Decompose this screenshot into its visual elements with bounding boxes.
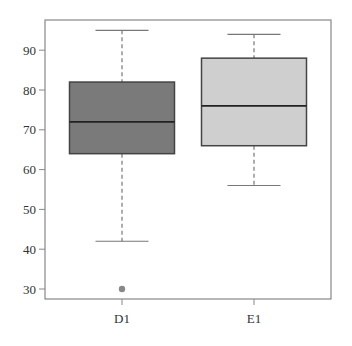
x-tick-label: D1 [114, 311, 130, 326]
y-tick-label: 90 [23, 43, 36, 58]
x-tick-label: E1 [247, 311, 261, 326]
y-tick-label: 70 [23, 122, 36, 137]
boxes [70, 30, 307, 292]
y-tick-label: 80 [23, 83, 36, 98]
y-tick-label: 30 [23, 282, 36, 297]
box-d1 [70, 30, 175, 292]
box-plot: 30405060708090 D1E1 [0, 0, 352, 346]
y-tick-label: 60 [23, 162, 36, 177]
box-e1 [202, 34, 307, 185]
y-tick-label: 40 [23, 242, 36, 257]
y-axis: 30405060708090 [23, 43, 45, 297]
iqr-box [202, 58, 307, 146]
outlier-point [119, 286, 125, 292]
y-tick-label: 50 [23, 202, 36, 217]
x-axis: D1E1 [114, 299, 261, 326]
iqr-box [70, 82, 175, 154]
